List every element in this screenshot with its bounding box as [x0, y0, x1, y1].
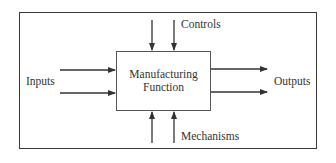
inputs-label: Inputs — [26, 75, 55, 88]
process-label-line1: Manufacturing — [129, 68, 197, 81]
controls-label: Controls — [181, 18, 221, 31]
process-box: Manufacturing Function — [116, 51, 211, 111]
mechanisms-label: Mechanisms — [181, 130, 239, 143]
process-label-line2: Function — [129, 81, 197, 94]
outputs-label: Outputs — [274, 75, 310, 88]
process-label: Manufacturing Function — [129, 68, 197, 94]
idef0-diagram: Manufacturing Function Inputs Outputs Co… — [0, 0, 336, 163]
